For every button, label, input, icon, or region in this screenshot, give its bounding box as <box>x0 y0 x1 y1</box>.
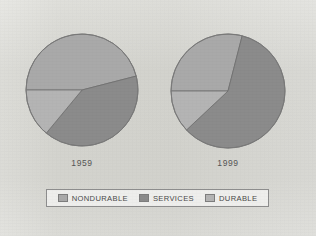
legend-swatch-durable <box>205 194 215 202</box>
pie-chart-figure: 1959 1999 NONDURABLE SERVICES DURABLE <box>0 0 316 236</box>
legend-swatch-nondurable <box>58 194 68 202</box>
legend-swatch-services <box>139 194 149 202</box>
legend-item-services: SERVICES <box>139 194 194 203</box>
chart-legend: NONDURABLE SERVICES DURABLE <box>46 189 269 207</box>
pie-1999-svg <box>146 0 316 160</box>
legend-label-durable: DURABLE <box>219 194 257 203</box>
legend-label-services: SERVICES <box>153 194 194 203</box>
pie-1959-year-label: 1959 <box>52 158 112 168</box>
pie-chart-1999 <box>146 0 316 160</box>
legend-item-durable: DURABLE <box>205 194 257 203</box>
pie-chart-1959 <box>0 0 170 160</box>
pie-1959-svg <box>0 0 170 160</box>
pie-1999-year-label: 1999 <box>198 158 258 168</box>
legend-label-nondurable: NONDURABLE <box>72 194 128 203</box>
legend-item-nondurable: NONDURABLE <box>58 194 128 203</box>
